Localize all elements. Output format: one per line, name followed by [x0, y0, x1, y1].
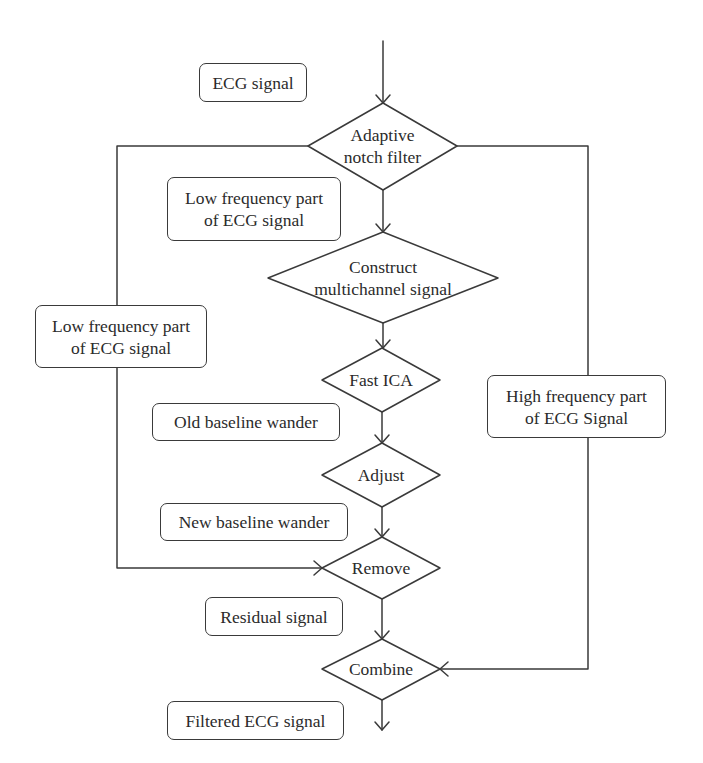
label-low-frequency-center: Low frequency part of ECG signal	[167, 177, 341, 241]
label-old-baseline-wander: Old baseline wander	[152, 403, 340, 441]
label-high-frequency-right: High frequency part of ECG Signal	[487, 375, 666, 438]
label-ecg-signal: ECG signal	[199, 63, 307, 102]
label-new-baseline-wander: New baseline wander	[160, 503, 348, 541]
label-text: Low frequency part	[52, 315, 190, 337]
diamond-combine	[322, 639, 440, 700]
label-text: of ECG signal	[204, 209, 304, 231]
flowchart-canvas: Adaptive notch filter Construct multicha…	[0, 0, 703, 763]
label-residual-signal: Residual signal	[205, 597, 343, 636]
diamond-construct-multichannel	[268, 232, 498, 323]
label-filtered-ecg-signal: Filtered ECG signal	[167, 701, 344, 740]
label-text: Filtered ECG signal	[186, 710, 326, 732]
label-text: Old baseline wander	[174, 411, 318, 433]
diamond-remove	[322, 537, 440, 599]
label-text: of ECG signal	[71, 337, 171, 359]
label-text: Low frequency part	[185, 187, 323, 209]
label-text: ECG signal	[212, 72, 293, 94]
label-text: New baseline wander	[179, 511, 330, 533]
label-text: of ECG Signal	[525, 407, 628, 429]
diamond-adjust	[322, 443, 440, 507]
label-low-frequency-left: Low frequency part of ECG signal	[35, 305, 207, 368]
label-text: High frequency part	[506, 385, 647, 407]
label-text: Residual signal	[220, 606, 327, 628]
diamond-fast-ica	[322, 348, 440, 412]
